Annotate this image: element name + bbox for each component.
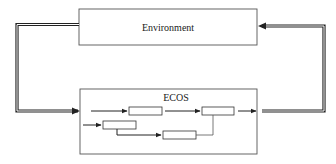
right-loop-connector (258, 23, 324, 112)
left-loop-outer (17, 25, 79, 112)
inner-block-a (129, 107, 162, 115)
left-loop-inner (17, 25, 79, 112)
inner-block-b (202, 107, 234, 115)
left-loop-arrowhead (72, 108, 80, 115)
inner-block-d (163, 131, 196, 139)
environment-label: Environment (142, 22, 194, 33)
left-loop-connector (17, 25, 80, 115)
ecos-label: ECOS (163, 92, 189, 103)
right-loop-arrowhead (258, 23, 266, 30)
inner-block-c (103, 121, 136, 129)
environment-node: Environment (79, 9, 257, 45)
right-loop-inner (262, 26, 324, 111)
right-loop-outer (262, 26, 324, 111)
diagram-canvas: Environment ECOS (0, 0, 336, 164)
